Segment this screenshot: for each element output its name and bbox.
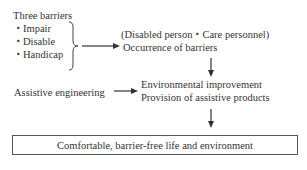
- barrier-item-impair: ・Impair: [13, 22, 51, 35]
- arrow-right-icon: [80, 42, 120, 50]
- brace-icon: [68, 21, 80, 71]
- arrow-down-icon: [207, 108, 215, 128]
- provision-label: Provision of assistive products: [141, 91, 270, 104]
- barrier-item-disable: ・Disable: [13, 35, 55, 48]
- arrow-right-icon: [113, 87, 138, 95]
- arrow-down-icon: [207, 57, 215, 77]
- assistive-engineering-label: Assistive engineering: [14, 86, 105, 99]
- barriers-title: Three barriers: [13, 9, 72, 22]
- barrier-item-handicap: ・Handicap: [13, 48, 63, 61]
- occurrence-context: (Disabled person・Care personnel): [121, 28, 269, 41]
- improvement-label: Environmental improvement: [141, 78, 262, 91]
- result-box: Comfortable, barrier-free life and envir…: [12, 135, 298, 155]
- occurrence-label: Occurrence of barriers: [123, 41, 217, 54]
- result-label: Comfortable, barrier-free life and envir…: [13, 139, 297, 152]
